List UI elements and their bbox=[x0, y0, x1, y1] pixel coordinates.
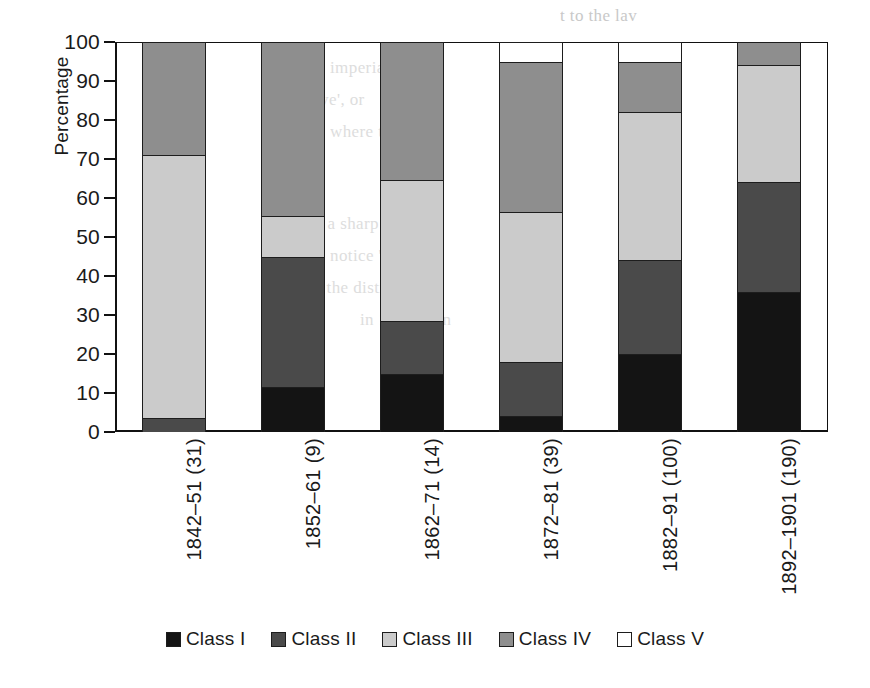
stacked-bar[interactable] bbox=[618, 42, 682, 432]
bar-segment-class-iv[interactable] bbox=[618, 62, 682, 113]
y-tick-mark bbox=[104, 158, 115, 160]
bar-segment-class-iii[interactable] bbox=[142, 155, 206, 418]
legend-swatch-class-iii bbox=[382, 632, 397, 647]
y-tick-mark bbox=[104, 41, 115, 43]
y-tick-label: 60 bbox=[76, 186, 100, 210]
bar-group bbox=[472, 42, 591, 432]
bar-segment-class-iii[interactable] bbox=[499, 212, 563, 362]
y-tick-label: 80 bbox=[76, 108, 100, 132]
stacked-bar-chart: Percentage 1009080706050403020100 1842–5… bbox=[0, 0, 870, 688]
x-axis-label: 1852–61 (9) bbox=[302, 438, 325, 618]
x-axis-labels: 1842–51 (31)1852–61 (9)1862–71 (14)1872–… bbox=[115, 440, 828, 620]
y-axis-ticks: 1009080706050403020100 bbox=[0, 42, 115, 432]
stacked-bar[interactable] bbox=[499, 42, 563, 432]
y-tick-mark bbox=[104, 275, 115, 277]
y-tick-mark bbox=[104, 119, 115, 121]
y-tick-mark bbox=[104, 80, 115, 82]
x-axis-label: 1862–71 (14) bbox=[421, 438, 444, 618]
y-tick-mark bbox=[104, 236, 115, 238]
y-tick-label: 10 bbox=[76, 381, 100, 405]
y-tick-label: 20 bbox=[76, 342, 100, 366]
y-tick-mark bbox=[104, 197, 115, 199]
bar-segment-class-iii[interactable] bbox=[261, 216, 325, 257]
y-tick-label: 40 bbox=[76, 264, 100, 288]
x-axis-label: 1842–51 (31) bbox=[183, 438, 206, 618]
bar-group bbox=[590, 42, 709, 432]
bar-segment-class-v[interactable] bbox=[618, 42, 682, 62]
bar-segment-class-ii[interactable] bbox=[737, 182, 801, 291]
y-tick-label: 30 bbox=[76, 303, 100, 327]
legend-label: Class I bbox=[186, 628, 245, 650]
bar-group bbox=[234, 42, 353, 432]
y-tick-mark bbox=[104, 314, 115, 316]
bar-segment-class-iv[interactable] bbox=[499, 62, 563, 212]
bar-segment-class-iv[interactable] bbox=[261, 42, 325, 216]
bar-segment-class-ii[interactable] bbox=[380, 321, 444, 374]
stacked-bar[interactable] bbox=[380, 42, 444, 432]
bar-segment-class-ii[interactable] bbox=[142, 418, 206, 432]
y-tick-mark bbox=[104, 431, 115, 433]
x-axis-label: 1882–91 (100) bbox=[659, 438, 682, 618]
bar-segment-class-iii[interactable] bbox=[618, 112, 682, 260]
bar-segment-class-ii[interactable] bbox=[618, 260, 682, 354]
legend-item-class-v[interactable]: Class V bbox=[617, 628, 704, 650]
bar-segment-class-iv[interactable] bbox=[737, 42, 801, 65]
legend-swatch-class-ii bbox=[271, 632, 286, 647]
chart-legend: Class IClass IIClass IIIClass IVClass V bbox=[0, 628, 870, 650]
legend-swatch-class-i bbox=[166, 632, 181, 647]
legend-label: Class III bbox=[402, 628, 472, 650]
bar-segment-class-i[interactable] bbox=[499, 416, 563, 432]
bar-group bbox=[353, 42, 472, 432]
bar-segment-class-ii[interactable] bbox=[499, 362, 563, 417]
bar-segment-class-iii[interactable] bbox=[380, 180, 444, 320]
y-tick-label: 0 bbox=[88, 420, 100, 444]
x-axis-label: 1872–81 (39) bbox=[540, 438, 563, 618]
y-tick-label: 90 bbox=[76, 69, 100, 93]
y-tick-label: 100 bbox=[64, 30, 100, 54]
legend-label: Class IV bbox=[519, 628, 591, 650]
bar-segment-class-iii[interactable] bbox=[737, 65, 801, 182]
stacked-bar[interactable] bbox=[142, 42, 206, 432]
bar-group bbox=[709, 42, 828, 432]
legend-label: Class V bbox=[637, 628, 704, 650]
bar-segment-class-i[interactable] bbox=[261, 387, 325, 432]
bar-segment-class-i[interactable] bbox=[618, 354, 682, 432]
y-tick-label: 50 bbox=[76, 225, 100, 249]
legend-swatch-class-iv bbox=[499, 632, 514, 647]
stacked-bar[interactable] bbox=[737, 42, 801, 432]
legend-item-class-i[interactable]: Class I bbox=[166, 628, 245, 650]
bar-segment-class-ii[interactable] bbox=[261, 257, 325, 388]
stacked-bar[interactable] bbox=[261, 42, 325, 432]
legend-item-class-iv[interactable]: Class IV bbox=[499, 628, 591, 650]
bar-segment-class-i[interactable] bbox=[737, 292, 801, 432]
bar-segment-class-i[interactable] bbox=[380, 374, 444, 433]
bar-segment-class-v[interactable] bbox=[499, 42, 563, 62]
y-tick-mark bbox=[104, 392, 115, 394]
legend-swatch-class-v bbox=[617, 632, 632, 647]
legend-label: Class II bbox=[291, 628, 356, 650]
legend-item-class-iii[interactable]: Class III bbox=[382, 628, 472, 650]
y-tick-label: 70 bbox=[76, 147, 100, 171]
y-tick-mark bbox=[104, 353, 115, 355]
bar-segment-class-iv[interactable] bbox=[142, 42, 206, 155]
bars-container bbox=[115, 42, 828, 432]
x-axis-label: 1892–1901 (190) bbox=[778, 438, 801, 618]
bar-segment-class-iv[interactable] bbox=[380, 42, 444, 180]
legend-item-class-ii[interactable]: Class II bbox=[271, 628, 356, 650]
bar-group bbox=[115, 42, 234, 432]
